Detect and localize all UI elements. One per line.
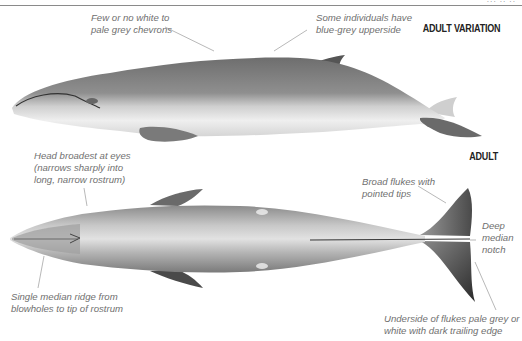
pectoral-fin-bottom	[150, 270, 203, 288]
leader-ridge	[38, 256, 44, 288]
heading-adult: ADULT	[469, 151, 498, 162]
annotation-head: Head broadest at eyes (narrows sharply i…	[34, 150, 131, 186]
annotation-underside: Underside of flukes pale grey or white w…	[384, 313, 519, 337]
leader-upperside	[274, 30, 307, 51]
annotation-notch: Deep median notch	[482, 220, 513, 256]
leader-head	[84, 188, 87, 206]
whale-dorsal	[10, 188, 475, 302]
annotation-chevrons: Few or no white to pale grey chevrons	[91, 12, 172, 36]
pectoral-fin-top	[150, 189, 203, 206]
annotation-flukes: Broad flukes with pointed tips	[362, 176, 435, 200]
tail-fluke-lower	[420, 118, 482, 138]
eye	[86, 98, 98, 104]
whale-lateral	[12, 55, 482, 142]
fluke-bottom	[420, 241, 475, 302]
heading-adult-variation: ADULT VARIATION	[422, 23, 500, 34]
annotation-ridge: Single median ridge from blowholes to ti…	[11, 291, 123, 315]
leader-underside	[475, 262, 496, 310]
annotation-upperside: Some individuals have blue-grey uppersid…	[316, 12, 412, 36]
leader-chevrons	[165, 27, 214, 51]
